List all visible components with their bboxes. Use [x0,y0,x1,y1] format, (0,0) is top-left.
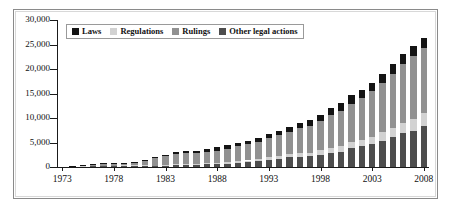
bar-segment [421,126,427,167]
bar-segment [142,161,148,165]
bar[interactable] [400,54,406,167]
bar-segment [297,123,303,128]
bar-segment [266,134,272,138]
bar[interactable] [328,108,334,167]
bar-segment [235,146,241,161]
bar[interactable] [286,127,292,167]
bar[interactable] [297,123,303,167]
bar-segment [390,74,396,128]
bar-segment [286,157,292,167]
bar-segment [266,157,272,159]
bar[interactable] [80,165,86,167]
bar[interactable] [235,143,241,168]
bar-segment [90,166,96,167]
bar[interactable] [183,151,189,167]
bar-segment [152,166,158,167]
bar-segment [348,148,354,167]
bar-segment [142,166,148,167]
bar-segment [421,38,427,48]
bar-segment [328,108,334,115]
bar-segment [276,159,282,167]
bar-segment [286,132,292,155]
bar[interactable] [317,115,323,167]
bar[interactable] [100,164,106,167]
bar[interactable] [369,83,375,167]
bar-segment [121,163,127,164]
bar[interactable] [173,152,179,167]
bar-segment [338,152,344,167]
bar[interactable] [410,45,416,167]
bar-segment [421,48,427,114]
bar[interactable] [307,120,313,167]
bar-segment [359,90,365,98]
bar-segment [286,154,292,157]
bar[interactable] [162,155,168,167]
x-axis-label: 1998 [301,174,341,184]
bar[interactable] [69,166,75,167]
bar-segment [173,152,179,154]
bar[interactable] [255,138,261,167]
bar-segment [162,155,168,157]
bar[interactable] [121,163,127,167]
bar-segment [369,83,375,91]
legend-item[interactable]: Laws [72,27,101,36]
bar[interactable] [421,38,427,167]
bar-segment [348,104,354,143]
bar[interactable] [379,74,385,167]
bar-segment [410,46,416,57]
bar-segment [90,164,96,165]
bar-segment [224,162,230,163]
bar-segment [379,132,385,140]
bar-segment [235,143,241,147]
bar-segment [162,166,168,167]
bar-segment [111,163,117,164]
bar-segment [297,153,303,156]
bar-segment [245,144,251,160]
legend-item[interactable]: Other legal actions [219,27,297,36]
x-axis-tick [269,167,270,171]
bar-segment [162,156,168,165]
bar-segment [193,153,199,164]
bar[interactable] [338,103,344,167]
bar[interactable] [224,145,230,167]
legend-item[interactable]: Rulings [172,27,210,36]
x-axis-tick [62,167,63,171]
bar-segment [204,152,210,164]
bar[interactable] [204,149,210,167]
bar[interactable] [348,95,354,167]
bar-segment [266,160,272,167]
bar[interactable] [266,134,272,167]
bar-segment [369,91,375,137]
bar-segment [80,165,86,166]
y-axis-tick [50,45,57,46]
bar[interactable] [152,157,158,167]
y-axis-tick [50,69,57,70]
bar[interactable] [90,165,96,167]
bar[interactable] [142,160,148,167]
bar[interactable] [214,147,220,167]
bar[interactable] [245,141,251,167]
bar[interactable] [276,131,282,167]
bar[interactable] [193,151,199,167]
bar-segment [338,146,344,152]
bar-segment [359,98,365,140]
bar-segment [400,133,406,167]
bar-segment [338,103,344,111]
legend-item[interactable]: Regulations [110,27,163,36]
legend-item-label: Other legal actions [229,27,297,36]
bar[interactable] [359,90,365,167]
bar[interactable] [390,64,396,167]
bar-segment [400,54,406,64]
bar-segment [328,148,334,153]
legend-swatch-rulings-icon [172,28,179,35]
bar-segment [183,153,189,163]
bar[interactable] [111,163,117,167]
bar-segment [131,163,137,166]
bar[interactable] [131,162,137,167]
bar-segment [183,151,189,153]
y-axis-tick [50,143,57,144]
bar-segment [245,161,251,163]
y-axis-tick [50,118,57,119]
bar-segment [204,149,210,151]
bar-segment [379,83,385,132]
